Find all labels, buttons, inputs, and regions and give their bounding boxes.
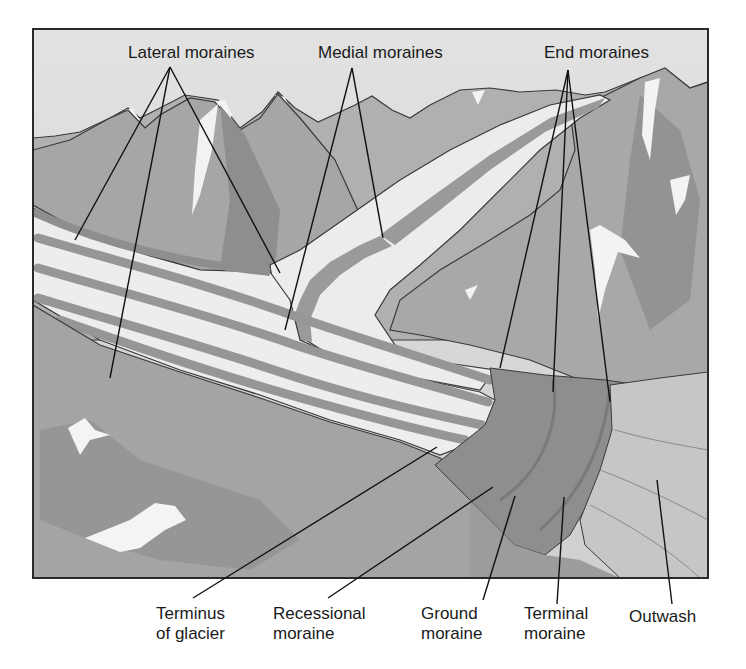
label-medial-moraines: Medial moraines [318,43,443,63]
glacier-diagram [0,0,746,669]
label-end-moraines: End moraines [544,43,649,63]
label-outwash: Outwash [629,607,696,627]
label-line: Outwash [629,607,696,627]
landscape-illustration [33,29,708,578]
label-terminal-moraine: Terminal moraine [524,604,588,644]
label-line: of glacier [156,624,225,644]
label-recessional-moraine: Recessional moraine [273,604,366,644]
label-line: Terminal [524,604,588,624]
label-line: moraine [273,624,366,644]
label-line: Recessional [273,604,366,624]
label-lateral-moraines: Lateral moraines [128,43,255,63]
label-line: Ground [421,604,482,624]
label-line: Terminus [156,604,225,624]
label-terminus-of-glacier: Terminus of glacier [156,604,225,644]
label-ground-moraine: Ground moraine [421,604,482,644]
label-line: moraine [524,624,588,644]
label-line: moraine [421,624,482,644]
